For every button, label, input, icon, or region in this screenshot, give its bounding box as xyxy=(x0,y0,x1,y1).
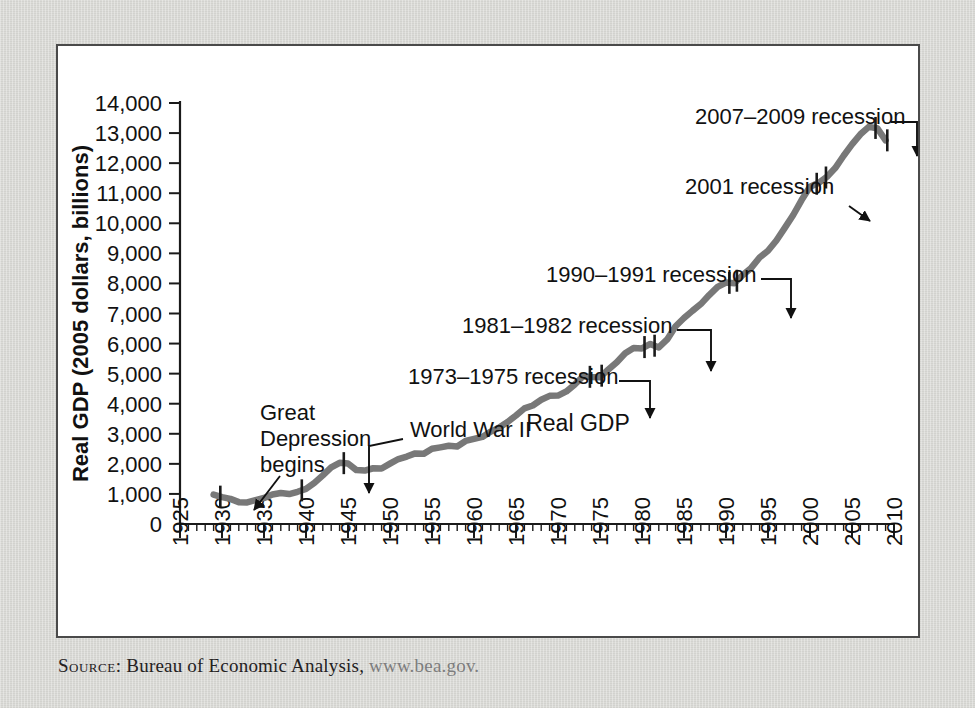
x-tick-label: 2000 xyxy=(798,497,823,546)
y-tick-label: 11,000 xyxy=(96,181,162,206)
source-note: Source: Bureau of Economic Analysis, www… xyxy=(58,655,479,677)
y-tick-label: 3,000 xyxy=(107,422,162,447)
x-tick-label: 2005 xyxy=(840,497,865,546)
x-tick-label: 1995 xyxy=(756,497,781,546)
x-tick-label: 1985 xyxy=(672,497,697,546)
annotation-recession-1990-1991: 1990–1991 recession xyxy=(546,262,791,318)
x-tick-label: 1930 xyxy=(210,497,235,546)
x-axis-title: Year xyxy=(552,632,599,636)
annotation-leader xyxy=(849,206,870,221)
x-tick-label: 1935 xyxy=(252,497,277,546)
series-label-real-gdp: Real GDP xyxy=(526,410,630,436)
x-tick-label: 1965 xyxy=(504,497,529,546)
annotation-recession-2001: 2001 recession xyxy=(685,174,870,221)
annotation-text: 2007–2009 recession xyxy=(695,104,905,129)
x-tick-label: 1925 xyxy=(168,497,193,546)
x-tick-label: 2010 xyxy=(882,497,907,546)
x-tick-label: 1955 xyxy=(420,497,445,546)
annotation-leader xyxy=(761,279,791,318)
y-tick-label: 4,000 xyxy=(107,392,162,417)
y-tick-label: 5,000 xyxy=(107,362,162,387)
annotation-text: 1981–1982 recession xyxy=(462,313,672,338)
annotation-text: Great xyxy=(260,400,315,425)
x-tick-label: 1975 xyxy=(588,497,613,546)
annotation-leader xyxy=(677,330,711,371)
x-tick-label: 1980 xyxy=(630,497,655,546)
annotation-text: 1990–1991 recession xyxy=(546,262,756,287)
figure-frame: 01,0002,0003,0004,0005,0006,0007,0008,00… xyxy=(56,44,920,638)
x-tick-label: 1945 xyxy=(336,497,361,546)
y-tick-label: 10,000 xyxy=(95,211,162,236)
y-tick-label: 13,000 xyxy=(95,121,162,146)
source-url: www.bea.gov. xyxy=(369,655,479,676)
annotation-recession-2007-2009: 2007–2009 recession xyxy=(695,104,917,156)
x-tick-label: 1990 xyxy=(714,497,739,546)
annotation-text: 1973–1975 recession xyxy=(408,364,618,389)
x-tick-label: 1950 xyxy=(378,497,403,546)
source-text: Bureau of Economic Analysis, xyxy=(121,655,369,676)
source-label: Source: xyxy=(58,655,121,676)
y-tick-label: 7,000 xyxy=(107,302,162,327)
x-tick-label: 1970 xyxy=(546,497,571,546)
y-tick-label: 2,000 xyxy=(107,452,162,477)
annotation-text: 2001 recession xyxy=(685,174,834,199)
real-gdp-line-chart: 01,0002,0003,0004,0005,0006,0007,0008,00… xyxy=(58,46,918,636)
y-tick-label: 12,000 xyxy=(95,151,162,176)
y-tick-label: 14,000 xyxy=(95,91,162,116)
y-axis-title: Real GDP (2005 dollars, billions) xyxy=(68,145,93,482)
y-tick-label: 0 xyxy=(150,512,162,537)
annotation-text: Depression xyxy=(260,426,371,451)
y-tick-label: 8,000 xyxy=(107,271,162,296)
y-tick-label: 9,000 xyxy=(107,241,162,266)
x-tick-label: 1960 xyxy=(462,497,487,546)
x-tick-label: 1940 xyxy=(294,497,319,546)
annotation-world-war-2: World War II xyxy=(369,417,531,493)
annotation-text: begins xyxy=(260,452,325,477)
y-tick-label: 6,000 xyxy=(107,332,162,357)
annotation-recession-1981-1982: 1981–1982 recession xyxy=(462,313,711,371)
annotation-text: World War II xyxy=(410,417,531,442)
y-tick-label: 1,000 xyxy=(107,482,162,507)
